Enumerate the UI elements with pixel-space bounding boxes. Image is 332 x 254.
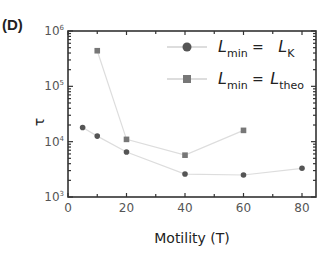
x-tick-label: 20 xyxy=(119,201,134,215)
y-tick-label: 103 xyxy=(44,190,64,204)
x-tick-label: 40 xyxy=(177,201,192,215)
axes: 020406080103104105106 xyxy=(44,24,316,215)
legend-marker-square xyxy=(183,75,191,83)
data-point-circle xyxy=(124,149,130,155)
data-point-circle xyxy=(182,171,188,177)
panel-label: (D) xyxy=(2,16,23,33)
legend: Lmin = LKLmin = Ltheo xyxy=(167,37,304,92)
series-markers xyxy=(80,48,305,178)
series-line-1 xyxy=(83,128,302,175)
data-point-square xyxy=(124,137,130,143)
legend-label: Lmin = Ltheo xyxy=(218,69,304,92)
x-tick-label: 60 xyxy=(236,201,251,215)
data-point-square xyxy=(241,128,247,134)
x-axis-title: Motility (T) xyxy=(154,230,230,246)
series-line-2 xyxy=(97,51,243,155)
y-tick-label: 104 xyxy=(44,135,64,149)
data-point-circle xyxy=(94,133,100,139)
legend-label: Lmin = LK xyxy=(218,37,295,60)
data-point-circle xyxy=(299,166,305,172)
data-point-circle xyxy=(241,172,247,178)
y-tick-label: 105 xyxy=(44,79,64,93)
data-point-circle xyxy=(80,125,86,131)
y-axis-title: τ xyxy=(31,118,47,126)
chart: (D) 020406080103104105106 Lmin = LKLmin … xyxy=(0,0,332,254)
legend-marker-circle xyxy=(183,43,192,52)
data-point-square xyxy=(94,48,100,54)
data-point-square xyxy=(182,152,188,158)
series-lines xyxy=(83,51,302,175)
x-tick-label: 80 xyxy=(294,201,309,215)
y-tick-label: 106 xyxy=(44,24,64,38)
x-tick-label: 0 xyxy=(64,201,72,215)
